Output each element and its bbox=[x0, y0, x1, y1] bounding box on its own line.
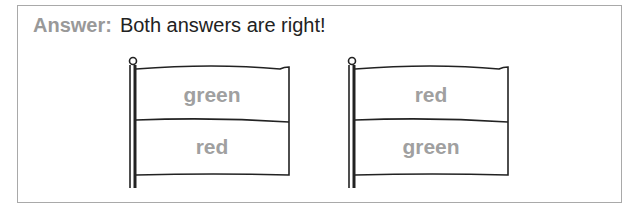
answer-text: Both answers are right! bbox=[120, 14, 326, 36]
flag-1: green red bbox=[124, 55, 324, 195]
answer-label: Answer: bbox=[33, 14, 112, 36]
flag-1-top-label: green bbox=[134, 83, 290, 107]
flag-2-bottom-label: green bbox=[353, 135, 509, 159]
flag-icon bbox=[124, 55, 324, 195]
answer-line: Answer:Both answers are right! bbox=[33, 14, 326, 37]
flag-2: red green bbox=[343, 55, 543, 195]
flag-icon bbox=[343, 55, 543, 195]
flag-1-bottom-label: red bbox=[134, 135, 290, 159]
flag-2-top-label: red bbox=[353, 83, 509, 107]
